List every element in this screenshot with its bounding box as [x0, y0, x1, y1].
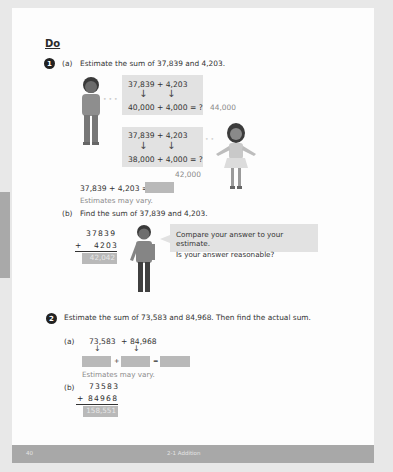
boy-box-rounded: 40,000 + 4,000 = ? — [128, 103, 203, 112]
boy-box-expression: 37,839 + 4,203 — [128, 80, 188, 89]
plus-operator: + — [75, 241, 83, 250]
problem-number-badge-1: 1 — [44, 58, 55, 69]
sum-rule — [75, 251, 117, 252]
boy-illustration-2 — [129, 224, 159, 296]
blank-equals: = — [153, 357, 158, 365]
estimate-blank-sum[interactable] — [160, 356, 190, 367]
speech-bubble: Compare your answer to your estimate. Is… — [170, 224, 318, 252]
girl-illustration — [210, 122, 262, 192]
arrow-down-icon: ↓ — [167, 89, 175, 99]
boy-illustration — [78, 76, 104, 148]
estimate-note-2: Estimates may vary. — [82, 370, 155, 379]
section-heading: Do — [45, 38, 60, 49]
part-label-2a: (a) — [64, 337, 74, 346]
problem-1a-prompt: Estimate the sum of 37,839 and 4,203. — [80, 59, 225, 68]
blank-plus: + — [114, 357, 119, 365]
girl-box-rounded: 38,000 + 4,000 = ? — [128, 155, 203, 164]
sum-answer-box[interactable]: 42,042 — [82, 253, 117, 264]
problem-number-badge-2: 2 — [46, 313, 57, 324]
chapter-side-tab — [0, 192, 10, 278]
boy-estimate-answer: 44,000 — [210, 103, 236, 112]
plus-operator-p2: + — [77, 394, 85, 403]
bubble-line-2: Is your answer reasonable? — [176, 250, 312, 259]
arrow-down-icon: ↓ — [94, 345, 101, 353]
problem-2-prompt: Estimate the sum of 73,583 and 84,968. T… — [64, 313, 311, 322]
arrow-down-icon: ↓ — [139, 89, 147, 99]
speech-bubble-tail — [160, 235, 170, 243]
part-label-1a: (a) — [62, 59, 72, 68]
vertical-addend-2: 4203 — [94, 241, 118, 250]
estimate-blank-1[interactable] — [82, 356, 111, 367]
arrow-down-icon: ↓ — [133, 345, 140, 353]
page-footer: 40 2-1 Addition — [12, 445, 374, 463]
vertical-addend-2-p2: 84968 — [88, 394, 118, 403]
girl-box-expression: 37,839 + 4,203 — [128, 131, 188, 140]
arrow-down-icon: ↓ — [139, 141, 147, 151]
chapter-title: 2-1 Addition — [167, 450, 200, 456]
part-label-2b: (b) — [64, 383, 74, 392]
estimate-equation: 37,839 + 4,203 = — [80, 184, 148, 193]
sum-rule-p2 — [76, 404, 118, 405]
expression-left: 73,583 — [89, 337, 116, 346]
thought-dots-icon: • • • — [103, 95, 117, 102]
sum-answer-box-p2[interactable]: 158,551 — [83, 406, 118, 417]
vertical-addend-1-p2: 73583 — [89, 382, 119, 391]
bubble-line-1: Compare your answer to your estimate. — [176, 230, 312, 248]
girl-estimate-answer: 42,000 — [175, 170, 201, 179]
estimate-answer-blank[interactable] — [145, 182, 174, 193]
expression-plus: + — [121, 337, 127, 346]
estimate-blank-2[interactable] — [121, 356, 150, 367]
part-label-1b: (b) — [62, 209, 72, 218]
problem-1b-prompt: Find the sum of 37,839 and 4,203. — [80, 209, 208, 218]
estimate-note: Estimates may vary. — [80, 196, 153, 205]
arrow-down-icon: ↓ — [167, 141, 175, 151]
page-number: 40 — [26, 450, 33, 456]
vertical-addend-1: 37839 — [86, 229, 116, 238]
